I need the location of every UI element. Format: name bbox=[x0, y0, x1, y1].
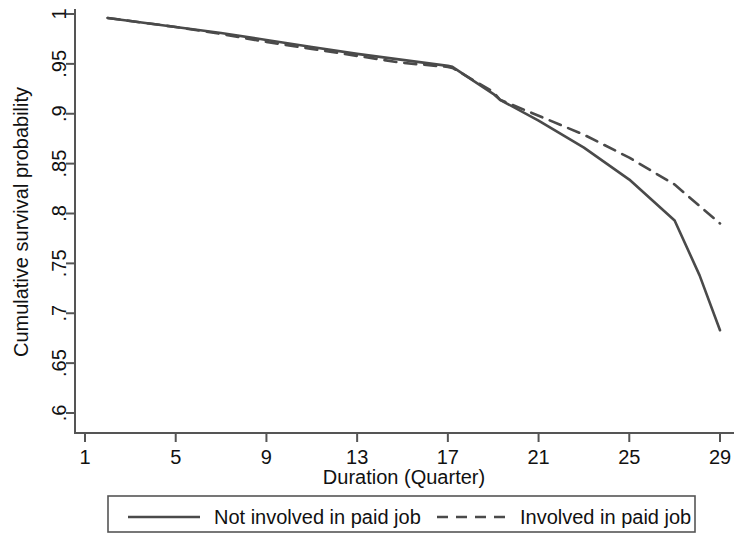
y-tick-label: .75 bbox=[48, 249, 70, 277]
y-tick-label: .6 bbox=[48, 405, 70, 422]
y-tick-label: .7 bbox=[48, 305, 70, 322]
y-axis-ticks: .6.65.7.75.8.85.9.951 bbox=[48, 8, 75, 421]
x-axis-ticks: 1591317212529 bbox=[79, 433, 731, 468]
y-tick-label: .85 bbox=[48, 150, 70, 178]
y-tick-label: 1 bbox=[48, 8, 70, 19]
x-tick-label: 29 bbox=[709, 446, 731, 468]
x-tick-label: 5 bbox=[170, 446, 181, 468]
y-tick-label: .65 bbox=[48, 349, 70, 377]
legend-label-involved: Involved in paid job bbox=[520, 506, 691, 528]
y-axis-title: Cumulative survival probability bbox=[10, 87, 32, 357]
legend: Not involved in paid job Involved in pai… bbox=[108, 496, 695, 532]
x-tick-label: 17 bbox=[437, 446, 459, 468]
series-line-dashed bbox=[108, 18, 720, 223]
y-tick-label: .8 bbox=[48, 205, 70, 222]
x-tick-label: 21 bbox=[527, 446, 549, 468]
x-tick-label: 13 bbox=[346, 446, 368, 468]
x-tick-label: 1 bbox=[79, 446, 90, 468]
chart-canvas: .6.65.7.75.8.85.9.951 1591317212529 Cumu… bbox=[0, 0, 736, 533]
x-tick-label: 9 bbox=[261, 446, 272, 468]
data-series-group bbox=[108, 18, 720, 330]
legend-label-not-involved: Not involved in paid job bbox=[214, 506, 421, 528]
y-tick-label: .9 bbox=[48, 105, 70, 122]
x-tick-label: 25 bbox=[618, 446, 640, 468]
x-axis-title: Duration (Quarter) bbox=[323, 466, 485, 488]
survival-curve-figure: .6.65.7.75.8.85.9.951 1591317212529 Cumu… bbox=[0, 0, 736, 533]
y-tick-label: .95 bbox=[48, 50, 70, 78]
